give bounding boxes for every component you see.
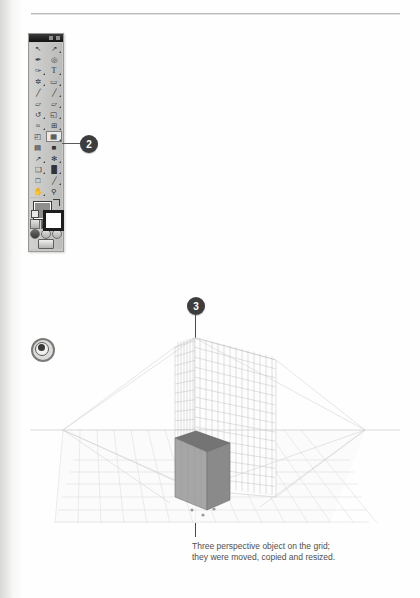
shape-builder-icon[interactable]: ⊞ (46, 120, 62, 131)
width-icon[interactable]: ≈ (30, 120, 46, 131)
tool-row: ✋⚲ (30, 186, 62, 197)
tool-glyph: T (52, 67, 57, 74)
tool-row: ✒◎ (30, 54, 62, 65)
swap-fill-stroke-icon[interactable] (53, 199, 60, 206)
zoom-magnifier-icon[interactable]: ⚲ (46, 186, 62, 197)
tool-flyout-indicator-icon[interactable] (59, 106, 61, 108)
type-icon[interactable]: T (46, 65, 62, 76)
screen-mode-icon[interactable] (38, 239, 54, 249)
symbol-sprayer-icon[interactable]: ❑ (30, 164, 46, 175)
tool-row: ↗✻ (30, 153, 62, 164)
tool-glyph: ❑ (35, 166, 42, 173)
lasso-icon[interactable]: ◎ (46, 54, 62, 65)
paintbrush-icon[interactable]: ╱ (30, 87, 46, 98)
eraser-icon[interactable]: ▱ (46, 98, 62, 109)
tool-glyph: ↺ (35, 111, 42, 118)
collapse-icon[interactable] (49, 36, 53, 40)
tool-glyph: ╱ (36, 89, 41, 96)
tool-row: ▱▱ (30, 98, 62, 109)
gradient-icon[interactable]: ■ (46, 142, 62, 153)
tool-glyph: ↗ (51, 45, 58, 52)
tool-flyout-indicator-icon[interactable] (59, 128, 61, 130)
scale-icon[interactable]: ◱ (46, 109, 62, 120)
tool-glyph: ╱ (52, 89, 57, 96)
tool-glyph: ╱ (52, 177, 57, 184)
tool-flyout-indicator-icon[interactable] (59, 172, 61, 174)
color-icon[interactable] (30, 219, 40, 229)
tools-panel[interactable]: ↖↗✒◎✑T✲▭╱╱▱▱↺◱≈⊞◰▦▤■↗✻❑█□╱✋⚲ (28, 33, 64, 252)
tool-glyph: ▱ (51, 100, 57, 107)
caption-line-1: Three perspective object on the grid; (192, 541, 392, 552)
tools-panel-body: ↖↗✒◎✑T✲▭╱╱▱▱↺◱≈⊞◰▦▤■↗✻❑█□╱✋⚲ (30, 43, 62, 249)
tool-row: ╱╱ (30, 87, 62, 98)
tool-flyout-indicator-icon[interactable] (43, 128, 45, 130)
tool-row: ↖↗ (30, 43, 62, 54)
column-graph-icon[interactable]: █ (46, 164, 62, 175)
tool-row: ▤■ (30, 142, 62, 153)
tool-glyph: ✻ (51, 155, 58, 162)
tool-glyph: ▱ (35, 100, 41, 107)
tool-glyph: ↖ (35, 45, 42, 52)
callout-2-leader-line (62, 143, 81, 144)
tool-row: ✲▭ (30, 76, 62, 87)
tool-flyout-indicator-icon[interactable] (59, 117, 61, 119)
pencil-icon[interactable]: ╱ (46, 87, 62, 98)
draw-normal-icon[interactable] (30, 229, 40, 239)
tool-glyph: ⊞ (51, 122, 58, 129)
blend-icon[interactable]: ✻ (46, 153, 62, 164)
stroke-swatch[interactable] (43, 210, 64, 231)
tool-glyph: █ (51, 166, 57, 173)
box-right-face (207, 443, 230, 510)
rotate-icon[interactable]: ↺ (30, 109, 46, 120)
tool-row: ↺◱ (30, 109, 62, 120)
tool-flyout-indicator-icon[interactable] (59, 51, 61, 53)
tool-flyout-indicator-icon[interactable] (43, 117, 45, 119)
tool-glyph: ◰ (34, 133, 42, 140)
tool-row: ◰▦ (30, 131, 62, 142)
tool-glyph: ✲ (35, 78, 42, 85)
tool-glyph: ▤ (34, 144, 42, 151)
tool-glyph: ↗ (35, 155, 42, 162)
slice-icon[interactable]: ╱ (46, 175, 62, 186)
perspective-grid-icon[interactable]: ▦ (46, 131, 62, 142)
magic-wand-icon[interactable]: ✒ (30, 54, 46, 65)
callout-marker-2: 2 (80, 135, 98, 153)
selection-arrow-icon[interactable]: ↖ (30, 43, 46, 54)
tool-glyph: ✋ (33, 188, 43, 195)
tool-flyout-indicator-icon[interactable] (59, 73, 61, 75)
tool-flyout-indicator-icon[interactable] (43, 84, 45, 86)
close-icon[interactable] (56, 36, 60, 40)
tools-panel-header[interactable] (29, 34, 63, 42)
page-edge-strip (0, 0, 14, 598)
tool-flyout-indicator-icon[interactable] (59, 84, 61, 86)
tool-glyph: ▭ (50, 78, 58, 85)
tool-glyph: □ (36, 177, 41, 184)
tool-flyout-indicator-icon[interactable] (59, 183, 61, 185)
tool-flyout-indicator-icon[interactable] (59, 161, 61, 163)
tool-flyout-indicator-icon[interactable] (43, 194, 45, 196)
callout-marker-3: 3 (187, 297, 205, 315)
fill-stroke-swatches[interactable] (30, 198, 62, 219)
default-fill-stroke-icon[interactable] (31, 210, 39, 218)
line-segment-icon[interactable]: ✲ (30, 76, 46, 87)
tool-row: □╱ (30, 175, 62, 186)
figure-caption: Three perspective object on the grid; th… (192, 541, 392, 563)
mesh-icon[interactable]: ▤ (30, 142, 46, 153)
eyedropper-icon[interactable]: ↗ (30, 153, 46, 164)
pen-icon[interactable]: ✑ (30, 65, 46, 76)
direct-selection-arrow-icon[interactable]: ↗ (46, 43, 62, 54)
tool-flyout-indicator-icon[interactable] (59, 139, 61, 141)
rectangle-icon[interactable]: ▭ (46, 76, 62, 87)
blob-brush-icon[interactable]: ▱ (30, 98, 46, 109)
hand-icon[interactable]: ✋ (30, 186, 46, 197)
tool-flyout-indicator-icon[interactable] (43, 172, 45, 174)
artboard-icon[interactable]: □ (30, 175, 46, 186)
tool-flyout-indicator-icon[interactable] (59, 95, 61, 97)
tool-glyph: ■ (52, 144, 57, 151)
tool-glyph: ▦ (50, 133, 58, 140)
free-transform-icon[interactable]: ◰ (30, 131, 46, 142)
caption-line-2: they were moved, copied and resized. (192, 552, 392, 563)
tool-flyout-indicator-icon[interactable] (43, 73, 45, 75)
tool-flyout-indicator-icon[interactable] (43, 161, 45, 163)
tool-glyph: ✑ (35, 67, 42, 74)
